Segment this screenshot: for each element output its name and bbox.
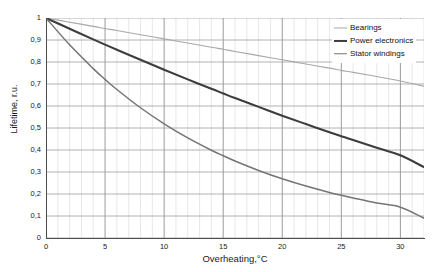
x-tick-label: 20 <box>267 242 297 251</box>
lifetime-vs-overheating-chart: Lifetime, r.u. 00,10,20,30,40,50,60,70,8… <box>0 0 444 272</box>
y-tick-label: 0,8 <box>0 58 41 66</box>
y-tick-label: 0,9 <box>0 36 41 44</box>
legend-item[interactable]: Bearings <box>334 21 413 34</box>
y-tick-label: 0,1 <box>0 212 41 220</box>
x-tick-label: 30 <box>385 242 415 251</box>
x-tick-label: 10 <box>149 242 179 251</box>
y-tick-label: 0,7 <box>0 80 41 88</box>
x-tick-label: 25 <box>326 242 356 251</box>
legend-color-swatch <box>334 50 347 57</box>
legend-color-swatch <box>334 37 347 44</box>
legend-color-swatch <box>334 24 347 31</box>
y-axis-line <box>46 18 47 239</box>
chart-legend: BearingsPower electronicsStator windings <box>332 19 416 63</box>
y-tick-label: 0,3 <box>0 168 41 176</box>
x-axis-line <box>46 238 425 239</box>
y-tick-label: 0,5 <box>0 124 41 132</box>
y-tick-label: 0,6 <box>0 102 41 110</box>
x-tick-label: 5 <box>90 242 120 251</box>
y-tick-label: 0,4 <box>0 146 41 154</box>
y-tick-label: 0 <box>0 234 41 242</box>
legend-item-label: Stator windings <box>350 49 405 58</box>
legend-item-label: Bearings <box>350 23 382 32</box>
legend-item-label: Power electronics <box>350 36 413 45</box>
x-tick-label: 0 <box>31 242 61 251</box>
x-axis-title: Overheating,°C <box>46 253 424 264</box>
x-tick-label: 15 <box>208 242 238 251</box>
legend-item[interactable]: Power electronics <box>334 34 413 47</box>
legend-item[interactable]: Stator windings <box>334 47 413 60</box>
y-tick-label: 1 <box>0 14 41 22</box>
y-tick-label: 0,2 <box>0 190 41 198</box>
